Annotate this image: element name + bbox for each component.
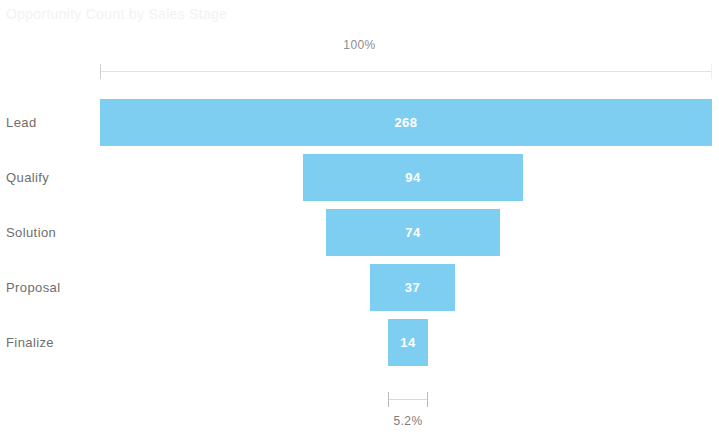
top-axis-right-tick [711, 64, 712, 79]
bar-track-lead: 268 [100, 95, 712, 150]
bar-track-qualify: 94 [100, 150, 712, 205]
funnel-row-solution: Solution 74 [0, 205, 719, 260]
funnel-rows: Lead 268 Qualify 94 Solution 74 Proposal [0, 95, 719, 370]
bottom-axis-line [388, 399, 428, 400]
category-label-qualify: Qualify [6, 150, 49, 205]
funnel-bar-solution[interactable] [326, 209, 500, 256]
top-scale-label: 100% [0, 38, 719, 52]
funnel-row-proposal: Proposal 37 [0, 260, 719, 315]
category-label-lead: Lead [6, 95, 37, 150]
bar-track-finalize: 14 [100, 315, 712, 370]
bottom-scale-label: 5.2% [358, 414, 458, 428]
funnel-chart: Opportunity Count by Sales Stage 100% Le… [0, 0, 719, 436]
top-axis-left-tick [100, 64, 101, 79]
top-axis-line [100, 71, 712, 72]
category-label-proposal: Proposal [6, 260, 61, 315]
page-title: Opportunity Count by Sales Stage [6, 5, 227, 23]
bar-track-solution: 74 [100, 205, 712, 260]
funnel-bar-finalize[interactable] [388, 319, 428, 366]
bottom-axis-right-tick [427, 392, 428, 407]
funnel-row-finalize: Finalize 14 [0, 315, 719, 370]
bottom-axis-left-tick [388, 392, 389, 407]
funnel-row-qualify: Qualify 94 [0, 150, 719, 205]
category-label-finalize: Finalize [6, 315, 54, 370]
funnel-bar-proposal[interactable] [370, 264, 455, 311]
bottom-scale: 5.2% [0, 388, 719, 436]
funnel-bar-lead[interactable] [100, 99, 712, 146]
bar-track-proposal: 37 [100, 260, 712, 315]
category-label-solution: Solution [6, 205, 56, 260]
funnel-bar-qualify[interactable] [303, 154, 523, 201]
funnel-row-lead: Lead 268 [0, 95, 719, 150]
